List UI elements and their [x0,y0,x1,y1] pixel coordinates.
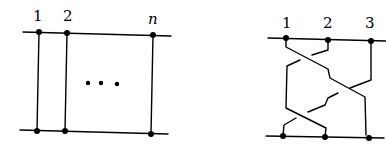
left-strand-2 [65,33,67,131]
left-diagram: 1 2 n [20,7,171,137]
left-bottom-dot-2 [62,128,68,134]
right-bottom-dot-3 [366,135,372,141]
left-bottom-dot-1 [34,128,40,134]
right-label-2: 2 [323,14,333,32]
left-top-dot-2 [64,30,70,36]
left-label-1: 1 [33,7,43,25]
right-strand-2-lower [286,60,326,137]
left-top-dot-n [150,32,156,38]
left-top-dot-1 [36,29,42,35]
left-bottom-dot-n [148,131,154,137]
left-strand-n [151,35,153,134]
left-strand-1 [37,32,39,131]
right-label-3: 3 [365,14,375,32]
left-top-line [23,32,171,36]
right-label-1: 1 [282,14,292,32]
left-label-2: 2 [63,7,73,25]
right-strand-2-upper [312,40,328,55]
ellipsis-dot [86,81,90,85]
right-diagram: 1 2 3 [266,14,386,141]
ellipsis-dot [99,81,103,85]
right-strand-3-middle [308,93,338,112]
right-bottom-dot-1 [280,133,286,139]
ellipsis-dot [115,82,119,86]
right-strand-3-upper [350,41,371,88]
right-top-dot-3 [368,38,374,44]
left-label-n: n [148,10,158,28]
braid-diagrams: 1 2 n 1 2 3 [0,0,386,146]
right-strand-3-lower [283,118,296,136]
right-top-dot-1 [283,35,289,41]
left-bottom-line [20,130,168,134]
right-bottom-dot-2 [322,134,328,140]
right-top-dot-2 [325,37,331,43]
